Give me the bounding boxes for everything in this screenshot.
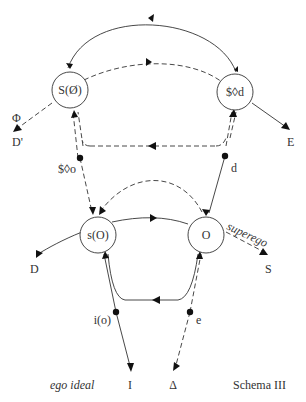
terminal-delta: Δ bbox=[169, 378, 177, 392]
schema-iii-diagram: S(Ø) $◊d s(O) O $◊o d i(o) e Φ D' E D S … bbox=[0, 0, 306, 402]
arrow-top-arc bbox=[148, 14, 154, 22]
arrow-upper-dashed-arc bbox=[146, 58, 152, 66]
point-io-label: i(o) bbox=[94, 313, 111, 327]
terminal-e-upper: E bbox=[287, 135, 294, 149]
node-s-O-label: s(O) bbox=[87, 228, 108, 242]
node-s-lozenge-d-label: $◊d bbox=[226, 85, 244, 99]
arrow-to-delta bbox=[173, 362, 180, 371]
point-d-label: d bbox=[231, 161, 237, 175]
node-s-phi-label: S(Ø) bbox=[58, 83, 81, 97]
edge-io-up-b bbox=[108, 254, 125, 300]
caption-ego-ideal: ego ideal bbox=[50, 378, 95, 392]
arrow-sO-to-O bbox=[150, 214, 157, 222]
edge-e-to-delta bbox=[176, 312, 190, 365]
terminal-i: I bbox=[128, 378, 132, 392]
diagram-title: Schema III bbox=[233, 378, 286, 392]
arrow-top-arc-end bbox=[66, 63, 73, 69]
arrow-phi bbox=[13, 124, 22, 132]
arrow-to-i bbox=[127, 363, 134, 372]
terminal-d-lower: D bbox=[30, 262, 39, 276]
edge-e-up-a bbox=[178, 254, 198, 300]
node-O-label: O bbox=[202, 228, 211, 242]
arrow-dashed-arc-to-sO bbox=[99, 206, 106, 215]
edge-io-to-i bbox=[116, 312, 130, 366]
point-so-label: $◊o bbox=[58, 162, 76, 176]
point-so bbox=[77, 155, 83, 161]
edge-middle-dashed-right-curve bbox=[216, 138, 226, 146]
edge-right-vertical-dashed-a bbox=[226, 112, 232, 146]
arrow-middle-dashed bbox=[148, 142, 156, 150]
point-e-label: e bbox=[196, 313, 201, 327]
arrow-bottom-horizontal bbox=[152, 296, 160, 304]
point-d bbox=[222, 153, 228, 159]
point-io bbox=[113, 309, 119, 315]
arrow-to-sO bbox=[89, 207, 96, 215]
terminal-d-prime: D' bbox=[12, 135, 23, 149]
edge-label-superego: superego bbox=[225, 219, 270, 250]
edge-left-vertical-dashed-a bbox=[73, 112, 78, 158]
edge-io-up-a bbox=[104, 254, 116, 312]
edge-upper-dashed-arc bbox=[84, 64, 222, 82]
edge-phi-dashed bbox=[18, 103, 52, 128]
edge-O-to-sO-dashed-arc bbox=[100, 181, 202, 213]
point-e bbox=[187, 309, 193, 315]
terminal-s-lower: S bbox=[265, 262, 272, 276]
edge-to-e bbox=[252, 103, 286, 127]
edge-d-to-O bbox=[209, 156, 225, 213]
arrow-to-e bbox=[281, 122, 290, 130]
terminal-phi: Φ bbox=[12, 111, 21, 125]
edge-top-arc bbox=[68, 25, 236, 72]
edge-to-d bbox=[38, 232, 82, 254]
edge-so-to-sO-dashed bbox=[80, 158, 92, 212]
arrow-to-s-phi bbox=[71, 110, 78, 118]
